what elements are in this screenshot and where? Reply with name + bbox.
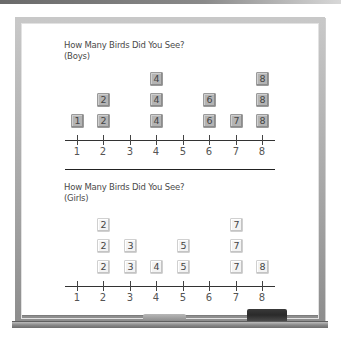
axis-tick: [262, 135, 263, 145]
axis-tick: [103, 135, 104, 145]
axis-tick: [209, 135, 210, 145]
axis-tick: [130, 135, 131, 145]
data-tile: 2: [97, 239, 110, 253]
axis-tick: [236, 135, 237, 145]
data-tile: 4: [150, 114, 163, 128]
axis-tick-label: 4: [148, 292, 164, 303]
data-tile: 7: [230, 239, 243, 253]
data-tile: 2: [97, 260, 110, 274]
top-edge-shadow: [0, 0, 341, 4]
axis-tick-label: 1: [69, 292, 85, 303]
axis-tick: [156, 135, 157, 145]
data-tile: 6: [203, 93, 216, 107]
data-tile: 2: [97, 218, 110, 232]
data-tile: 4: [150, 93, 163, 107]
axis-tick: [156, 281, 157, 291]
boys-axis-line: [65, 140, 275, 141]
data-tile: 7: [230, 218, 243, 232]
data-tile: 4: [150, 260, 163, 274]
boys-chart-subtitle: (Boys): [64, 51, 90, 62]
data-tile: 4: [150, 72, 163, 86]
axis-tick: [77, 135, 78, 145]
girls-axis-line: [65, 286, 275, 287]
axis-tick: [183, 135, 184, 145]
data-tile: 8: [256, 260, 269, 274]
axis-tick: [103, 281, 104, 291]
axis-tick-label: 2: [95, 146, 111, 157]
chart-separator: [65, 169, 275, 170]
axis-tick-label: 2: [95, 292, 111, 303]
axis-tick-label: 7: [228, 146, 244, 157]
eraser: [247, 309, 287, 321]
data-tile: 5: [177, 260, 190, 274]
data-tile: 2: [97, 114, 110, 128]
axis-tick: [209, 281, 210, 291]
boys-chart-title: How Many Birds Did You See?: [64, 40, 184, 51]
data-tile: 8: [256, 114, 269, 128]
data-tile: 8: [256, 93, 269, 107]
axis-tick: [236, 281, 237, 291]
data-tile: 7: [230, 114, 243, 128]
data-tile: 5: [177, 239, 190, 253]
axis-tick: [130, 281, 131, 291]
axis-tick-label: 7: [228, 292, 244, 303]
marker: [143, 314, 186, 321]
axis-tick-label: 6: [201, 146, 217, 157]
axis-tick: [183, 281, 184, 291]
axis-tick: [262, 281, 263, 291]
axis-tick-label: 5: [175, 146, 191, 157]
data-tile: 7: [230, 260, 243, 274]
axis-tick-label: 4: [148, 146, 164, 157]
girls-chart-subtitle: (Girls): [64, 193, 88, 204]
axis-tick-label: 8: [254, 292, 270, 303]
axis-tick-label: 5: [175, 292, 191, 303]
data-tile: 6: [203, 114, 216, 128]
girls-chart-title: How Many Birds Did You See?: [64, 182, 184, 193]
axis-tick-label: 6: [201, 292, 217, 303]
data-tile: 1: [71, 114, 84, 128]
whiteboard-surface: [21, 23, 319, 319]
data-tile: 2: [97, 93, 110, 107]
data-tile: 3: [124, 239, 137, 253]
data-tile: 3: [124, 260, 137, 274]
data-tile: 8: [256, 72, 269, 86]
axis-tick: [77, 281, 78, 291]
axis-tick-label: 1: [69, 146, 85, 157]
axis-tick-label: 8: [254, 146, 270, 157]
axis-tick-label: 3: [122, 292, 138, 303]
axis-tick-label: 3: [122, 146, 138, 157]
whiteboard-tray: [12, 321, 328, 328]
